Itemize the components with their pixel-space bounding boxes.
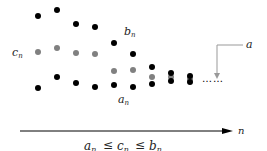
ineq-c-n: cn — [117, 139, 129, 151]
label-limit-a: a — [246, 38, 253, 51]
b-n-dot — [149, 64, 155, 70]
b-n-dot — [111, 40, 117, 46]
b-n-dot — [130, 51, 136, 57]
a-n-dot — [187, 79, 193, 85]
a-n-dot — [130, 84, 136, 90]
ellipsis: …… — [202, 73, 224, 84]
a-n-dot — [111, 82, 117, 88]
axis-label-n: n — [238, 125, 244, 136]
c-n-dot — [35, 49, 41, 55]
a-n-dot — [73, 80, 79, 86]
a-n-dot — [92, 84, 98, 90]
inequality: an ≤ cn ≤ bn — [84, 138, 162, 151]
c-n-dot — [54, 45, 60, 51]
label-b-n: bn — [124, 25, 136, 39]
ineq-a-n: an — [84, 139, 96, 151]
sequence-dots — [35, 7, 193, 91]
c-n-dot — [149, 74, 155, 80]
a-n-dot — [168, 78, 174, 84]
b-n-dot — [92, 24, 98, 30]
a-n-dot — [35, 85, 41, 91]
a-n-dot — [54, 74, 60, 80]
ineq-leq-1: ≤ — [103, 138, 113, 151]
b-n-dot — [73, 21, 79, 27]
label-c-n: cn — [12, 46, 23, 60]
c-n-dot — [92, 51, 98, 57]
c-n-dot — [130, 67, 136, 73]
ineq-leq-2: ≤ — [135, 138, 145, 151]
b-n-dot — [35, 13, 41, 19]
limit-leader-line — [217, 45, 243, 74]
b-n-dot — [187, 73, 193, 79]
label-a-n: an — [118, 93, 130, 107]
ineq-b-n: bn — [149, 139, 162, 151]
c-n-dot — [73, 50, 79, 56]
axis-arrow-icon — [222, 128, 233, 134]
c-n-dot — [111, 68, 117, 74]
a-n-dot — [149, 81, 155, 87]
b-n-dot — [54, 7, 60, 13]
squeeze-theorem-diagram: bn cn an …… a n an ≤ cn ≤ bn — [0, 0, 267, 151]
b-n-dot — [168, 70, 174, 76]
diagram-svg: bn cn an …… a n an ≤ cn ≤ bn — [0, 0, 267, 151]
